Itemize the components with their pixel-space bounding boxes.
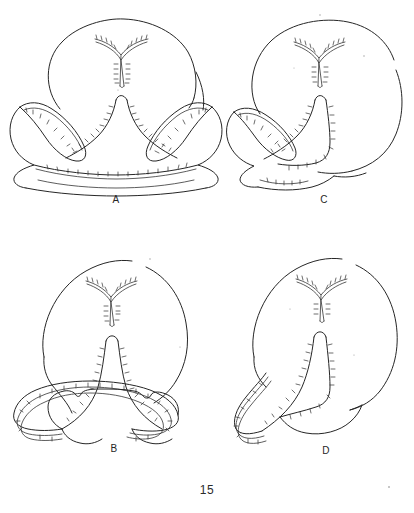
speck — [289, 308, 290, 309]
page-number: 15 — [0, 483, 414, 497]
speck — [149, 258, 150, 259]
basal-arm-d — [234, 373, 271, 444]
speck — [179, 346, 180, 347]
left-outer-wing-c — [227, 112, 258, 187]
right-lateral-lobe-a — [146, 103, 212, 161]
basal-lumen-b — [48, 389, 179, 444]
basal-arc-b — [14, 381, 179, 441]
speck — [319, 14, 320, 15]
speck — [388, 486, 390, 488]
speck — [117, 89, 118, 90]
figure-label-c: C — [312, 194, 336, 205]
basal-band-c — [258, 176, 334, 190]
illustration-plate: A — [0, 0, 414, 513]
apical-notch-a — [95, 35, 148, 88]
apical-notch-c — [294, 38, 345, 88]
speck — [294, 68, 295, 69]
left-outer-wing-a — [10, 107, 34, 188]
figure-label-d: D — [314, 445, 338, 456]
basal-band-a — [26, 163, 206, 196]
medial-column-d — [262, 332, 335, 431]
lower-body-edge-d — [280, 405, 362, 434]
figure-a-drawing — [0, 8, 232, 193]
figure-panel-d: D — [232, 245, 414, 470]
speck — [363, 55, 364, 56]
figure-c-drawing — [228, 8, 414, 193]
apical-notch-d — [296, 275, 347, 323]
right-outer-wing-a — [198, 107, 222, 188]
figure-b-drawing — [10, 245, 225, 470]
figure-panel-a: A — [0, 8, 232, 193]
figure-panel-b: B — [10, 245, 225, 470]
speck — [353, 354, 354, 355]
apical-notch-b — [86, 277, 137, 327]
figure-panel-c: C — [228, 8, 414, 193]
figure-d-drawing — [232, 245, 414, 470]
left-lateral-lobe-c — [234, 108, 296, 160]
medial-lobe-c — [264, 96, 335, 171]
figure-label-a: A — [104, 194, 128, 205]
figure-label-b: B — [102, 443, 126, 454]
